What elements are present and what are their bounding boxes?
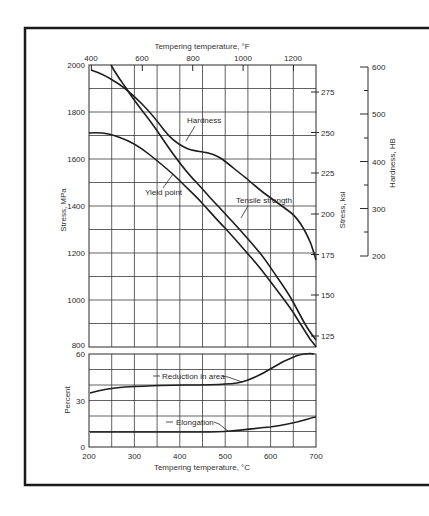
ksi-tick-175: 175	[321, 251, 335, 260]
mpa-tick-2000: 2000	[67, 61, 85, 70]
mpa-tick-1200: 1200	[67, 249, 85, 258]
c-tick-600: 600	[264, 452, 278, 461]
left-axis-title: Stress, MPa	[59, 188, 68, 232]
c-tick-700: 700	[309, 452, 323, 461]
tensile-strength-label: Tensile strength	[236, 196, 292, 205]
mpa-tick-1600: 1600	[67, 155, 85, 164]
ksi-tick-225: 225	[321, 169, 335, 178]
hb-tick-300: 300	[372, 205, 386, 214]
ksi-ticks	[311, 92, 319, 336]
c-tick-300: 300	[128, 452, 142, 461]
hardness-label: Hardness	[187, 116, 221, 125]
ksi-tick-125: 125	[321, 332, 335, 341]
mpa-tick-1800: 1800	[67, 108, 85, 117]
elongation-leader	[214, 422, 228, 431]
c-tick-500: 500	[219, 452, 233, 461]
upper-panel: 400 600 800 1000 1200 Tempering temperat…	[59, 42, 397, 350]
bottom-axis-title: Tempering temperature, °C	[154, 463, 250, 472]
hb-tick-400: 400	[372, 158, 386, 167]
f-tick-600: 600	[135, 54, 149, 63]
mpa-tick-1400: 1400	[67, 202, 85, 211]
hardness-axis	[360, 67, 368, 256]
pct-tick-0: 0	[81, 443, 86, 452]
reduction-in-area-label: Reduction in area	[162, 372, 225, 381]
chart-figure: 400 600 800 1000 1200 Tempering temperat…	[0, 0, 429, 516]
fahrenheit-ticks	[91, 65, 293, 71]
c-tick-400: 400	[173, 452, 187, 461]
pct-tick-30: 30	[76, 397, 85, 406]
tensile-strength-leader	[241, 206, 248, 218]
f-tick-800: 800	[186, 54, 200, 63]
hb-tick-500: 500	[372, 110, 386, 119]
hardness-curve	[91, 70, 316, 260]
yield-point-leader	[163, 174, 173, 188]
top-axis-title: Tempering temperature, °F	[154, 42, 249, 51]
elongation-label: Elongation	[176, 418, 214, 427]
yield-point-label: Yield point	[145, 188, 183, 197]
right-axis-title: Stress, ksi	[338, 191, 347, 228]
mpa-tick-1000: 1000	[67, 296, 85, 305]
mpa-tick-800: 800	[72, 341, 86, 350]
ksi-tick-275: 275	[321, 88, 335, 97]
hb-tick-600: 600	[372, 63, 386, 72]
f-tick-400: 400	[84, 54, 98, 63]
ksi-tick-200: 200	[321, 210, 335, 219]
percent-axis-title: Percent	[63, 385, 72, 413]
hb-tick-200: 200	[372, 252, 386, 261]
f-tick-1200: 1200	[284, 54, 302, 63]
lower-panel: 60 30 0 Percent 200 300 400 500 600 700 …	[63, 350, 323, 472]
ksi-tick-250: 250	[321, 129, 335, 138]
pct-tick-60: 60	[76, 350, 85, 359]
hardness-leader	[186, 126, 195, 141]
c-tick-200: 200	[82, 452, 96, 461]
ksi-tick-150: 150	[321, 291, 335, 300]
f-tick-1000: 1000	[234, 54, 252, 63]
hardness-axis-title: Hardness, HB	[388, 138, 397, 188]
